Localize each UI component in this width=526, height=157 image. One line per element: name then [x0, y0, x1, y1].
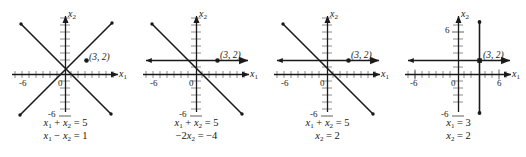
- panel-3-xtick-zero: 0: [320, 78, 325, 88]
- panel-1-y-axis-label: x2: [68, 8, 76, 19]
- panel-4-equations: x1 = 3 x2 = 2: [393, 116, 524, 142]
- panel-4-x-axis-label: x1: [512, 68, 520, 79]
- panel-3: x2 x1 -6 0 -6 (3, 2) x1 + x2 = 5 x2 = 2: [262, 0, 393, 157]
- panel-4-solution-point: [477, 58, 482, 63]
- panel-3-axes-svg: [262, 0, 393, 118]
- panel-3-xtick-neg6: -6: [281, 78, 289, 88]
- panel-2: x2 x1 -6 0 -6 (3, 2) x1 + x2 = 5 −2x2 = …: [131, 0, 262, 157]
- panel-3-equation-1: x1 + x2 = 5: [262, 116, 393, 129]
- panel-2-point-label: (3, 2): [220, 50, 241, 60]
- panel-2-xtick-zero: 0: [189, 78, 194, 88]
- panel-4-line-1-endpoint-bottom: [478, 111, 482, 115]
- panel-2-line-2-arrow-left: [146, 58, 152, 63]
- panel-4-xtick-pos6: 6: [497, 78, 502, 88]
- panel-4-xtick-neg6: -6: [410, 78, 418, 88]
- panel-4-axes-svg: [393, 0, 524, 118]
- panel-4-line-2-arrow-left: [408, 58, 414, 63]
- panel-4-ytick-pos6: 6: [445, 25, 450, 35]
- panel-1-equations: x1 + x2 = 5 x1 − x2 = 1: [0, 116, 131, 142]
- panel-1-equation-1: x1 + x2 = 5: [0, 116, 131, 129]
- panel-2-axes-svg: [131, 0, 262, 118]
- panel-2-equation-1: x1 + x2 = 5: [131, 116, 262, 129]
- panel-1-line-1-endpoint-start: [19, 22, 22, 25]
- panel-4-point-label: (3, 2): [483, 50, 504, 60]
- panel-4-xtick-zero: 0: [451, 78, 456, 88]
- panel-3-plot: x2 x1 -6 0 -6 (3, 2): [262, 0, 393, 118]
- panel-4-equation-2: x2 = 2: [393, 129, 524, 142]
- panel-1-point-label: (3, 2): [89, 52, 110, 62]
- panel-3-y-axis-label: x2: [330, 8, 338, 19]
- panel-3-equation-2: x2 = 2: [262, 129, 393, 142]
- panel-2-equation-2: −2x2 = −4: [131, 129, 262, 142]
- panel-4-plot: x2 x1 -6 0 6 6 -6 (3, 2): [393, 0, 524, 118]
- panel-2-xtick-neg6: -6: [150, 78, 158, 88]
- panel-1-line-2-endpoint-end: [110, 21, 113, 24]
- panel-1-equation-2: x1 − x2 = 1: [0, 129, 131, 142]
- panel-3-line-2-arrow-left: [277, 58, 283, 63]
- panel-4-y-axis-label: x2: [461, 8, 469, 19]
- panel-1: x2 x1 -6 0 -6 (3, 2) x1 + x2 = 5 x1 − x2…: [0, 0, 131, 157]
- panel-2-x-axis-label: x1: [250, 68, 258, 79]
- panel-2-equations: x1 + x2 = 5 −2x2 = −4: [131, 116, 262, 142]
- panel-3-equations: x1 + x2 = 5 x2 = 2: [262, 116, 393, 142]
- panel-1-axes-svg: [0, 0, 131, 118]
- panel-2-plot: x2 x1 -6 0 -6 (3, 2): [131, 0, 262, 118]
- panel-4-line-1-endpoint-top: [478, 20, 482, 24]
- panel-1-xtick-neg6: -6: [19, 78, 27, 88]
- linear-system-figure: x2 x1 -6 0 -6 (3, 2) x1 + x2 = 5 x1 − x2…: [0, 0, 526, 157]
- panel-3-line-1-endpoint-start: [281, 22, 284, 25]
- panel-4: x2 x1 -6 0 6 6 -6 (3, 2) x1 = 3 x2 = 2: [393, 0, 524, 157]
- panel-3-point-label: (3, 2): [351, 50, 372, 60]
- panel-1-x-axis-label: x1: [119, 68, 127, 79]
- panel-3-x-axis-label: x1: [381, 68, 389, 79]
- panel-4-equation-1: x1 = 3: [393, 116, 524, 129]
- panel-1-plot: x2 x1 -6 0 -6 (3, 2): [0, 0, 131, 118]
- panel-1-xtick-zero: 0: [58, 78, 63, 88]
- panel-2-y-axis-label: x2: [199, 8, 207, 19]
- panel-2-line-1-endpoint-start: [150, 22, 153, 25]
